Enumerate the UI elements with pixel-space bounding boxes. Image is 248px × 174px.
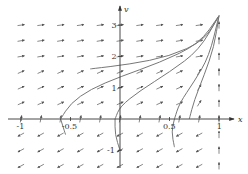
field-arrow-icon [156,40,163,41]
field-arrow-icon [37,40,44,41]
field-arrow-icon [97,164,103,167]
field-arrow-icon [157,149,163,152]
field-arrow-icon [176,164,182,167]
field-arrow-icon [57,86,63,89]
field-arrow-icon [197,100,201,106]
field-arrow-icon [156,102,162,105]
field-arrow-icon [156,86,162,89]
field-arrow-icon [97,56,104,57]
y-tick-label: -1 [107,146,115,155]
field-arrow-icon [18,133,24,136]
field-arrow-icon [97,133,103,136]
field-arrow-icon [176,40,183,41]
field-arrow-icon [37,56,44,57]
field-arrow-icon [77,133,83,136]
field-arrow-icon [137,71,143,74]
field-arrow-icon [157,133,163,136]
field-arrow-icon [77,71,83,74]
field-arrow-icon [137,133,143,136]
field-arrow-icon [58,133,64,136]
field-arrow-icon [97,71,103,74]
field-arrow-icon [197,69,201,75]
field-arrow-icon [176,86,182,89]
x-tick-label: 1 [217,122,222,131]
field-arrow-icon [18,86,24,89]
field-arrow-icon [137,164,143,167]
field-arrow-icon [77,25,84,26]
field-arrow-icon [38,133,44,136]
field-arrow-icon [196,164,202,167]
field-arrow-icon [77,56,84,57]
y-tick-label: 2 [112,52,117,61]
field-arrow-icon [57,71,63,74]
field-arrow-icon [37,25,44,26]
field-arrow-icon [176,56,183,57]
field-arrow-icon [18,102,24,105]
field-arrow-icon [176,149,182,152]
field-arrow-icon [196,56,203,57]
x-tick-label: 0.5 [163,122,176,131]
field-arrow-icon [137,86,143,89]
solution-curve [115,119,120,150]
field-arrow-icon [57,56,64,57]
field-arrow-icon [77,164,83,167]
solution-curve [189,16,219,119]
field-arrow-icon [97,40,104,41]
field-arrow-icon [58,164,64,167]
solution-curves [61,16,219,151]
field-arrow-icon [137,102,143,105]
field-arrow-icon [136,40,143,41]
solution-curve [174,16,219,119]
field-arrow-icon [18,25,25,26]
field-arrow-icon [97,102,103,105]
field-arrow-icon [38,164,44,167]
field-arrow-icon [18,149,24,152]
field-arrow-icon [156,25,163,26]
solution-curve [90,16,219,69]
field-arrow-icon [156,71,162,74]
y-tick-label: 3 [112,21,117,30]
field-arrow-icon [77,86,83,89]
field-arrow-icon [77,149,83,152]
field-arrow-icon [58,149,64,152]
field-arrow-icon [57,40,64,41]
y-tick-label: 1 [112,84,117,93]
field-arrow-icon [57,25,64,26]
field-arrow-icon [38,149,44,152]
x-tick-label: -0.5 [62,122,77,131]
field-arrow-icon [176,133,182,136]
field-arrow-icon [136,56,143,57]
solution-curve [115,16,219,119]
field-arrow-icon [57,102,63,105]
field-arrow-icon [18,71,24,74]
field-arrow-icon [97,25,104,26]
phase-portrait-plot: -1-0.50.51321-1 x v [0,0,248,174]
field-arrow-icon [38,71,44,74]
field-arrow-icon [18,40,25,41]
field-arrow-icon [176,71,182,74]
field-arrow-icon [38,86,44,89]
y-axis-label: v [124,5,129,14]
field-arrow-icon [196,25,203,26]
field-arrow-icon [38,102,44,105]
field-arrow-icon [137,149,143,152]
direction-field-arrows [18,22,219,170]
field-arrow-icon [77,40,84,41]
field-arrow-icon [157,164,163,167]
x-tick-label: -1 [17,122,25,131]
field-arrow-icon [156,56,163,57]
x-axis-label: x [238,115,243,124]
field-arrow-icon [77,102,83,105]
field-arrow-icon [97,149,103,152]
field-arrow-icon [136,25,143,26]
field-arrow-icon [196,133,202,136]
field-arrow-icon [196,149,202,152]
field-arrow-icon [176,25,183,26]
field-arrow-icon [18,164,24,167]
field-arrow-icon [18,56,25,57]
